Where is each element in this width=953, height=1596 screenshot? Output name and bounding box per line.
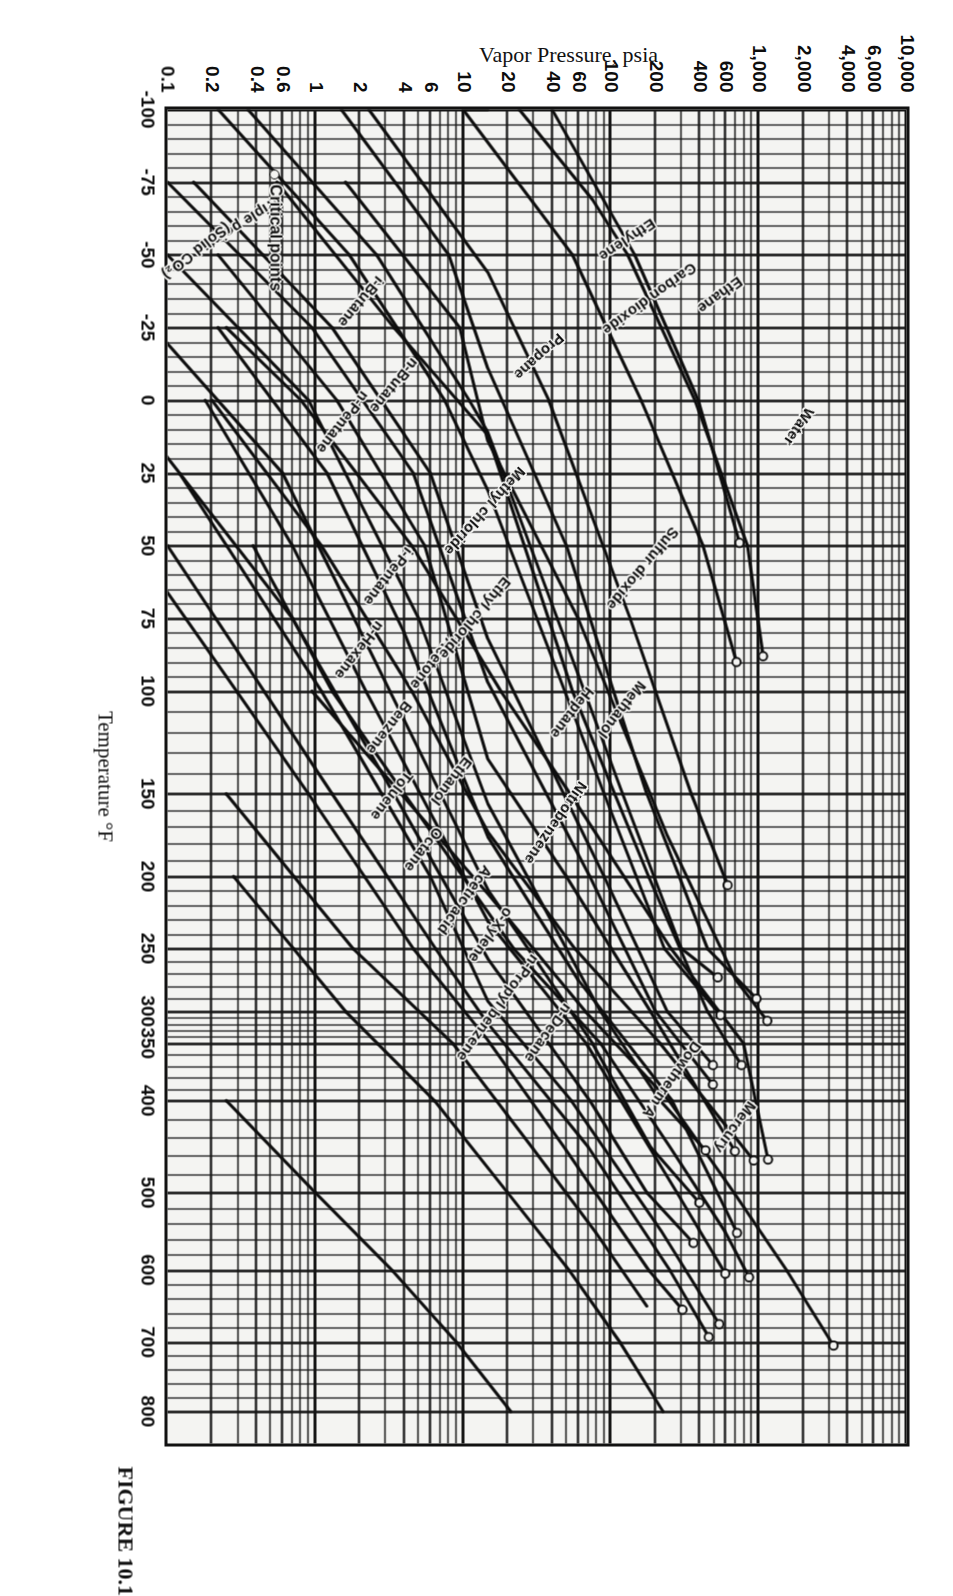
- x-tick-label: -100: [136, 90, 158, 128]
- x-tick-label: 200: [136, 860, 158, 892]
- x-tick-label: 150: [136, 777, 158, 809]
- y-tick-label: 2: [348, 81, 370, 92]
- y-tick-label: 6: [419, 81, 441, 92]
- y-tick-label: 0.1: [156, 66, 178, 92]
- y-tick-label: 60: [567, 71, 589, 92]
- chart-frame: WaterMercuryDowtherm ANitrobenzeneSulfur…: [164, 106, 909, 1446]
- y-tick-label: 0.4: [245, 66, 267, 92]
- x-tick-label: 250: [136, 932, 158, 964]
- figure-caption: FIGURE 10.1: [112, 1466, 138, 1596]
- y-axis-title: Vapor Pressure, psia: [196, 42, 941, 68]
- x-tick-label: -75: [136, 168, 158, 195]
- x-tick-label: 50: [136, 535, 158, 556]
- x-tick-label: 350: [136, 1027, 158, 1059]
- chart-curves-canvas: [167, 109, 906, 1443]
- x-tick-label: 500: [136, 1176, 158, 1208]
- x-tick-label: 700: [136, 1326, 158, 1358]
- x-tick-label: 100: [136, 675, 158, 707]
- x-axis-tick-labels: -100-75-50-25025507510015020025030035040…: [118, 106, 158, 1446]
- y-tick-label: 20: [496, 71, 518, 92]
- legend-critical-points-label: Critical points: [267, 184, 284, 291]
- x-tick-label: 600: [136, 1254, 158, 1286]
- x-tick-label: 800: [136, 1395, 158, 1427]
- y-tick-label: 1: [304, 81, 326, 92]
- open-circle-icon: [269, 169, 279, 179]
- x-axis-title: Temperature °F: [92, 106, 117, 1446]
- x-tick-label: -50: [136, 241, 158, 268]
- x-tick-label: -25: [136, 313, 158, 340]
- x-tick-label: 300: [136, 995, 158, 1027]
- y-tick-label: 0.6: [271, 66, 293, 92]
- x-tick-label: 75: [136, 607, 158, 628]
- x-tick-label: 0: [136, 395, 158, 406]
- y-tick-label: 0.2: [201, 66, 223, 92]
- chart-plot-area: WaterMercuryDowtherm ANitrobenzeneSulfur…: [164, 106, 909, 1446]
- y-tick-label: 40: [541, 71, 563, 92]
- y-tick-label: 10: [452, 71, 474, 92]
- y-tick-label: 4: [393, 81, 415, 92]
- x-tick-label: 25: [136, 462, 158, 483]
- legend-critical-points: Critical points: [266, 169, 284, 291]
- x-tick-label: 400: [136, 1084, 158, 1116]
